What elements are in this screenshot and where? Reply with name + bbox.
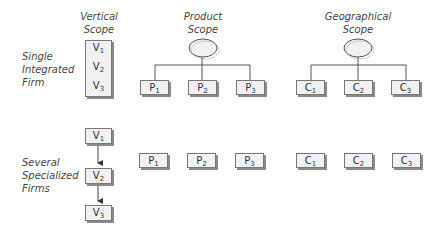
- header-line: Geographical: [318, 10, 398, 23]
- vertical-item: V2: [93, 59, 104, 78]
- header-line: Vertical: [72, 10, 126, 23]
- vertical-box-v2: V2: [85, 168, 112, 184]
- vertical-item: V3: [93, 78, 104, 97]
- geo-box-c2-separate: C2: [344, 153, 373, 168]
- product-box-p3-separate: P3: [235, 153, 264, 168]
- row-label-line: Specialized: [22, 169, 79, 182]
- vertical-integrated-box: V1 V2 V3: [85, 40, 112, 97]
- row-label-line: Firms: [22, 182, 79, 195]
- header-line: Scope: [72, 23, 126, 36]
- header-line: Scope: [170, 23, 236, 36]
- geo-box-c2: C2: [344, 80, 373, 95]
- product-box-p3: P3: [236, 80, 265, 95]
- header-product-scope: Product Scope: [170, 10, 236, 36]
- row-label-line: Several: [22, 156, 79, 169]
- header-geographical-scope: Geographical Scope: [318, 10, 398, 36]
- geographical-tree-lines: [311, 57, 406, 80]
- row-label-line: Firm: [22, 76, 74, 89]
- row-label-several-specialized-firms: Several Specialized Firms: [22, 156, 79, 195]
- vertical-item: V1: [93, 40, 104, 59]
- product-box-p1: P1: [140, 80, 169, 95]
- product-box-p1-separate: P1: [139, 153, 168, 168]
- row-label-line: Single: [22, 50, 74, 63]
- geo-box-c3-separate: C3: [392, 153, 421, 168]
- geo-box-c1: C1: [296, 80, 325, 95]
- geo-box-c3: C3: [391, 80, 420, 95]
- row-label-line: Integrated: [22, 63, 74, 76]
- header-line: Product: [170, 10, 236, 23]
- vertical-box-v1: V1: [85, 128, 112, 144]
- product-box-p2-separate: P2: [187, 153, 216, 168]
- product-tree-lines: [155, 57, 250, 80]
- header-line: Scope: [318, 23, 398, 36]
- header-vertical-scope: Vertical Scope: [72, 10, 126, 36]
- vertical-box-v3: V3: [85, 205, 112, 221]
- row-label-single-integrated-firm: Single Integrated Firm: [22, 50, 74, 89]
- product-box-p2: P2: [188, 80, 217, 95]
- geo-box-c1-separate: C1: [296, 153, 325, 168]
